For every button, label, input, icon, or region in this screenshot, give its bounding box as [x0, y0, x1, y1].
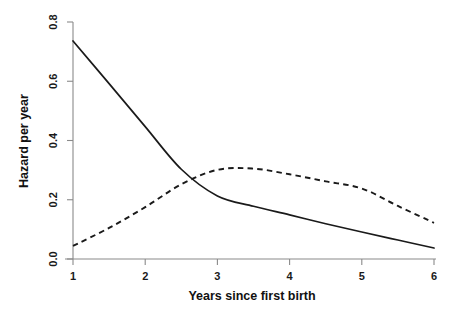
x-axis-ticks — [73, 259, 434, 265]
y-tick-label: 0.4 — [47, 132, 59, 148]
x-tick-label: 5 — [359, 270, 365, 282]
y-axis: 0.00.20.40.60.8 — [47, 14, 73, 266]
hazard-line-chart: 0.00.20.40.60.8 123456 Hazard per year Y… — [0, 0, 455, 319]
y-tick-label: 0.8 — [47, 14, 59, 29]
x-tick-label: 6 — [431, 270, 437, 282]
y-axis-tick-labels: 0.00.20.40.60.8 — [47, 14, 59, 266]
y-axis-ticks — [67, 22, 73, 259]
y-tick-label: 0.6 — [47, 74, 59, 89]
x-tick-label: 3 — [214, 270, 220, 282]
x-tick-label: 1 — [70, 270, 76, 282]
x-axis-title: Years since first birth — [188, 289, 315, 303]
chart-figure: 0.00.20.40.60.8 123456 Hazard per year Y… — [0, 0, 455, 319]
y-axis-title: Hazard per year — [17, 94, 31, 188]
y-tick-label: 0.0 — [47, 251, 59, 266]
y-tick-label: 0.2 — [47, 192, 59, 207]
x-tick-label: 4 — [287, 270, 294, 282]
x-axis: 123456 — [65, 259, 437, 282]
x-axis-tick-labels: 123456 — [70, 270, 437, 282]
x-tick-label: 2 — [142, 270, 148, 282]
